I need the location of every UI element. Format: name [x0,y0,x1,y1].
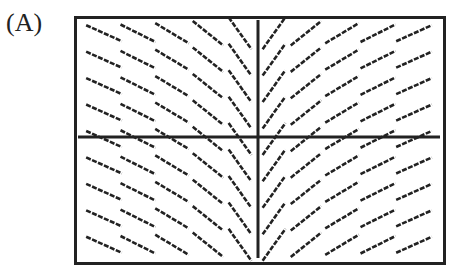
slope-segment [361,77,396,94]
slope-segment [121,24,156,41]
slope-segment [86,237,122,253]
slope-segment [229,202,252,234]
slope-segment [396,184,432,200]
slope-segment [291,206,322,230]
slope-segment [86,25,122,41]
slope-segment [325,76,359,96]
slope-segment [229,44,252,76]
slope-segment [263,17,286,49]
slope-segment [263,70,286,102]
slope-segment [193,47,224,71]
slope-segment [229,229,252,261]
slope-segment [155,76,189,96]
slope-segment [325,182,359,202]
slope-segment [325,50,359,70]
slope-segment [291,47,322,71]
slope-segment [291,21,322,45]
slope-segment [155,155,189,175]
slope-segment [396,25,432,41]
slope-segment [396,52,432,68]
slope-segment [121,210,156,227]
slope-segment [229,97,252,129]
slope-segment [291,74,322,98]
slope-segment [193,127,224,151]
slope-segment [155,182,189,202]
slope-segment [361,130,396,147]
slope-segment [229,17,252,49]
slope-segment [396,78,432,94]
slope-segment [86,210,122,226]
slope-segment [325,208,359,228]
slope-segment [263,44,286,76]
slope-segment [86,105,122,121]
slope-segment [361,104,396,121]
slope-segment [193,233,224,257]
slope-segment [155,102,189,122]
slope-segment [263,150,286,182]
slope-segment [396,237,432,253]
slope-segment [155,208,189,228]
slope-segment [325,23,359,43]
slope-segment [291,153,322,177]
slope-segment [325,155,359,175]
slope-segment [325,129,359,149]
slope-segment [361,236,396,253]
slope-segment [121,130,156,147]
slope-segment [361,183,396,200]
slope-segment [86,131,122,147]
slope-segment [229,123,252,155]
slope-segment [155,129,189,149]
slope-segment [263,97,286,129]
slope-segment [86,52,122,68]
slope-segment [325,235,359,255]
slope-segment [396,157,432,173]
slope-segment [229,150,252,182]
slope-segment [396,105,432,121]
slope-segment [325,102,359,122]
slope-segment [396,131,432,147]
slope-segment [193,21,224,45]
slope-segment [86,157,122,173]
slope-segment [121,236,156,253]
slope-segment [121,183,156,200]
slope-segment [263,123,286,155]
slope-segment [291,180,322,204]
slope-segment [121,157,156,174]
slope-segment [263,176,286,208]
slope-segment [155,23,189,43]
slope-segment [193,100,224,124]
slope-segment [193,180,224,204]
slope-segment [86,184,122,200]
slope-segment [291,100,322,124]
slope-segment [291,233,322,257]
slope-segment [193,206,224,230]
slope-segment [263,202,286,234]
slope-segment [155,50,189,70]
slope-segment [361,51,396,68]
slope-segment [291,127,322,151]
slope-segment [121,77,156,94]
slope-segment [229,176,252,208]
slope-segment [263,229,286,261]
slope-segment [121,104,156,121]
slope-segment [396,210,432,226]
slope-segment [193,74,224,98]
slope-segment [361,210,396,227]
slope-segment [229,70,252,102]
slope-segment [361,24,396,41]
slope-segment [86,78,122,94]
slope-segment [155,235,189,255]
slope-segment [121,51,156,68]
slope-segment [193,153,224,177]
slope-segment [361,157,396,174]
